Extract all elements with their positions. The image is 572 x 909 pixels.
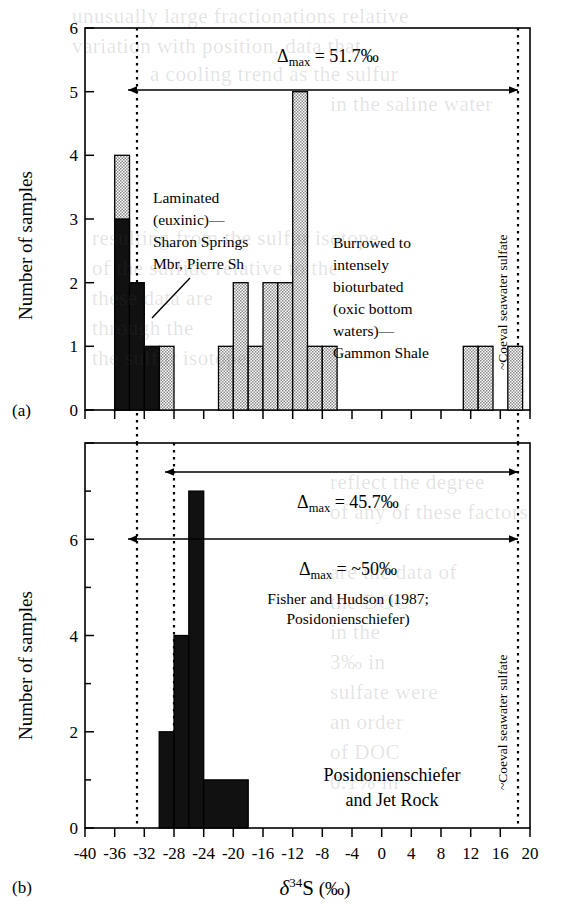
panel-b: 0 2 4 6 [12,443,539,900]
panel-a-callout-leader [152,278,190,318]
panel-a-ytick-1: 1 [70,337,79,356]
panel-b-deltamax-50-label: Δmax = ~50‰ [299,559,397,582]
panel-a-x-ticks [85,410,530,419]
panel-a-callout-line-2: Sharon Springs [153,233,248,250]
panel-b-seawater-label: ~Coeval seawater sulfate [495,654,510,790]
panel-a-y-axis [85,28,94,410]
panel-a-callout-line-3: Mbr, Pierre Sh [153,255,244,272]
panel-a-ytick-5: 5 [70,83,79,102]
panel-a-bars-stipple [115,92,523,410]
xtick--28: -28 [163,844,186,863]
panel-a-callout-r-2: bioturbated [333,278,404,295]
panel-a-ytick-0: 0 [70,401,79,420]
panel-b-bars [159,491,248,828]
figure-container: unusually large fractionations relative … [0,0,572,909]
panel-b-ytick-6: 6 [70,531,79,550]
panel-a-yaxis-title: Number of samples [15,171,36,320]
panel-a-callout-line-1: (euxinic)— [153,211,225,229]
panel-b-y-ticklabels: 0 2 4 6 [70,531,79,838]
panel-b-deltamax-457-label: Δmax = 45.7‰ [297,492,399,515]
panel-b-yaxis-title: Number of samples [15,591,36,740]
panel-a-seawater-label: ~Coeval seawater sulfate [495,234,510,370]
xtick-0: 0 [377,844,386,863]
panel-a-callout-burrowed: Burrowed to intensely bioturbated (oxic … [333,234,429,361]
panel-a-callout-r-4: waters)— [333,322,395,340]
panel-b-sample-label-0: Posidonienschiefer [324,765,461,785]
xtick-16: 16 [492,844,509,863]
panel-b-ytick-2: 2 [70,723,79,742]
panel-b-x-ticklabels: -40 -36 -32 -28 -24 -20 -16 -12 -8 -4 0 … [74,844,539,863]
panel-a-tag: (a) [12,401,31,420]
panel-a-callout-r-3: (oxic bottom [333,300,413,318]
xtick--20: -20 [222,844,245,863]
panel-a-callout-line-0: Laminated [153,189,220,206]
panel-a-deltamax-label: Δmax = 51.7‰ [277,46,379,69]
xtick--12: -12 [281,844,304,863]
panel-a: 0 1 2 3 4 5 6 [12,19,530,443]
panel-a-y-ticklabels: 0 1 2 3 4 5 6 [70,19,79,420]
panel-a-ytick-6: 6 [70,19,79,38]
xtick-20: 20 [522,844,539,863]
panel-b-citation-line-0: Fisher and Hudson (1987; [267,590,428,608]
panel-a-callout-r-1: intensely [333,256,389,273]
xtick--36: -36 [103,844,126,863]
histogram-figure: 0 1 2 3 4 5 6 [0,0,572,909]
panel-b-y-axis [85,443,94,828]
xtick--4: -4 [345,844,360,863]
panel-a-callout-r-5: Gammon Shale [333,344,429,361]
panel-b-sample-label-1: and Jet Rock [346,790,439,810]
xtick--40: -40 [74,844,97,863]
panel-b-ytick-0: 0 [70,819,79,838]
panel-a-ytick-4: 4 [70,146,79,165]
panel-b-ytick-4: 4 [70,627,79,646]
panel-b-x-ticks [85,828,530,837]
xtick-8: 8 [437,844,446,863]
xtick--24: -24 [192,844,215,863]
panel-a-callout-r-0: Burrowed to [333,234,411,251]
xtick--32: -32 [133,844,156,863]
panel-a-ytick-2: 2 [70,274,79,293]
xtick-4: 4 [407,844,416,863]
xtick-12: 12 [462,844,479,863]
panel-b-citation-line-1: Posidonienschiefer) [286,610,409,628]
panel-a-ytick-3: 3 [70,210,79,229]
panel-b-tag: (b) [12,878,32,897]
xtick--8: -8 [315,844,329,863]
xtick--16: -16 [252,844,275,863]
x-axis-title: δ34S (‰) [280,875,351,900]
